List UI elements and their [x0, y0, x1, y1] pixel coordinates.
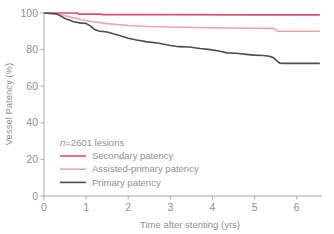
y-tick-label: 100: [20, 7, 38, 19]
legend-annotation: n=2601 lesions: [60, 137, 124, 148]
x-axis-title: Time after stenting (yrs): [140, 219, 240, 230]
y-tick-label: 0: [32, 190, 38, 202]
y-tick-label: 80: [26, 43, 38, 55]
x-tick-label: 0: [41, 201, 47, 213]
series-lines: [44, 13, 320, 63]
y-tick-label: 20: [26, 153, 38, 165]
series-line-0: [44, 13, 320, 15]
x-tick-label: 5: [252, 201, 258, 213]
legend-label-1: Assisted-primary patency: [92, 163, 199, 174]
x-tick-label: 1: [83, 201, 89, 213]
legend-label-2: Primary patency: [92, 177, 161, 188]
y-axis-title: Vessel Patency (%): [3, 63, 14, 145]
chart-legend: n=2601 lesionsSecondary patencyAssisted-…: [60, 137, 199, 188]
x-tick-label: 3: [167, 201, 173, 213]
x-tick-label: 6: [294, 201, 300, 213]
y-axis: 020406080100: [20, 7, 44, 202]
chart-figure: 020406080100 0123456 n=2601 lesionsSecon…: [0, 0, 334, 234]
legend-label-0: Secondary patency: [92, 150, 174, 161]
x-tick-label: 4: [210, 201, 216, 213]
y-tick-label: 60: [26, 80, 38, 92]
kaplan-meier-chart: 020406080100 0123456 n=2601 lesionsSecon…: [0, 0, 334, 234]
series-line-1: [44, 13, 320, 31]
x-axis: 0123456: [41, 196, 322, 213]
y-tick-label: 40: [26, 116, 38, 128]
x-tick-label: 2: [125, 201, 131, 213]
